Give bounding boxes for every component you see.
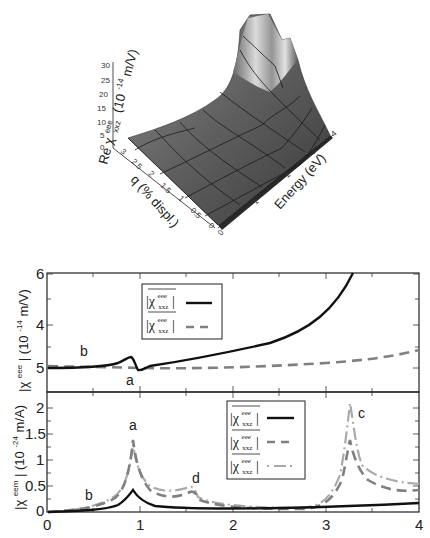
bottom-panel: 2 1.5 1 0.5 0 0 1 2 3 4 |χ eem | (10 -24… xyxy=(6,392,423,533)
bottom-ylabel: |χ eem | (10 -24 m/A) xyxy=(6,405,27,510)
z-label-unit2: m/V) xyxy=(119,48,141,78)
z-tick-15: 15 xyxy=(97,104,106,113)
z-label-main: Re χ xyxy=(95,136,117,166)
z-tick-20: 20 xyxy=(99,90,108,99)
bottom-solid-curve xyxy=(48,490,419,512)
svg-text:|χ eem | (10: |χ eem | (10 -24 m/A) xyxy=(6,405,27,510)
bottom-annot-c: c xyxy=(358,405,365,421)
z-tick-25: 25 xyxy=(101,76,110,85)
middle-annot-a: a xyxy=(126,372,134,388)
bottom-ytick-1.5: 1.5 xyxy=(25,425,46,442)
surface-plot: 0 5 10 15 20 25 30 Re χ eee xxz (10 -14 … xyxy=(90,14,339,237)
xtick-4: 4 xyxy=(415,516,423,533)
svg-text:|χ eee | (10: |χ eee | (10 -14 m/V) xyxy=(10,289,31,392)
z-label-exp: -14 xyxy=(114,77,126,91)
middle-panel: 6 4 5 |χ eee | (10 -14 m/V) b a |χ xyxy=(10,265,419,392)
z-label-unit: (10 xyxy=(109,92,128,114)
e-tick-0: 0 xyxy=(216,228,226,238)
q-tick-2.5: 2.5 xyxy=(130,157,145,172)
bottom-ytick-1: 1 xyxy=(36,451,44,468)
xtick-2: 2 xyxy=(229,516,237,533)
middle-ylabel: |χ eee | (10 -14 m/V) xyxy=(10,289,31,392)
z-label-sub: xxz xyxy=(111,120,123,134)
bottom-annot-d: d xyxy=(192,470,200,486)
q-tick-2: 2 xyxy=(147,169,157,179)
middle-ytick-6: 6 xyxy=(36,265,44,282)
xtick-1: 1 xyxy=(136,516,144,533)
bottom-annot-a: a xyxy=(129,417,137,433)
bottom-annot-b: b xyxy=(85,487,93,503)
middle-ytick-4: 4 xyxy=(36,316,44,333)
xtick-3: 3 xyxy=(322,516,330,533)
middle-legend: |χ eee xxz | |χ eee xxz | xyxy=(142,284,222,339)
bottom-ytick-2: 2 xyxy=(36,399,44,416)
middle-ytick-5: 5 xyxy=(36,359,44,376)
z-tick-30: 30 xyxy=(101,61,110,70)
q-tick-3: 3 xyxy=(119,147,129,157)
middle-frame xyxy=(47,273,419,392)
q-tick-1: 1 xyxy=(177,194,187,204)
middle-annot-b: b xyxy=(80,343,88,359)
bottom-ytick-0.5: 0.5 xyxy=(25,477,46,494)
bottom-legend: |χ eee xxz | |χ eee xxz | xyxy=(227,401,305,479)
middle-ticks xyxy=(47,273,419,392)
figure: 0 5 10 15 20 25 30 Re χ eee xxz (10 -14 … xyxy=(0,0,430,538)
xtick-0: 0 xyxy=(43,516,51,533)
